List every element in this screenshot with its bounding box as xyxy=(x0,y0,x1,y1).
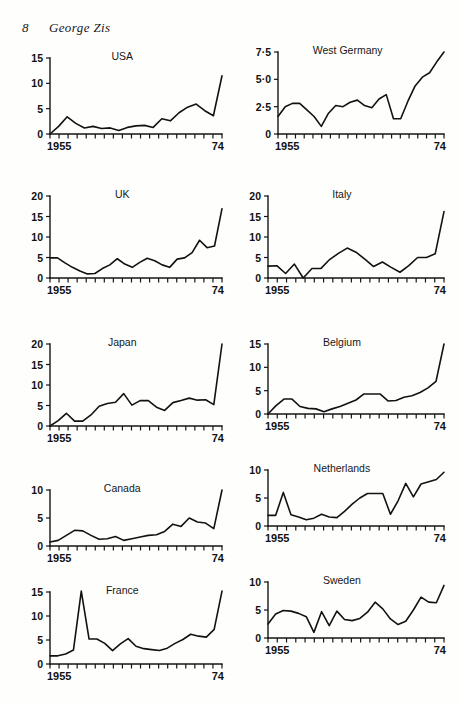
chart-canvas-belgium: Belgium051015195574 xyxy=(232,330,454,438)
y-tick-label: 0 xyxy=(37,540,43,552)
y-tick-label: 15 xyxy=(31,52,43,64)
y-tick-label: 0 xyxy=(255,520,261,532)
y-tick-label: 20 xyxy=(31,190,43,202)
x-end-label: 74 xyxy=(212,284,225,296)
series-line-japan xyxy=(50,344,222,426)
y-tick-label: 0 xyxy=(37,128,43,140)
x-end-label: 74 xyxy=(434,420,447,432)
chart-title: USA xyxy=(111,50,133,62)
chart-canvas-sweden: Sweden0510195574 xyxy=(232,568,454,672)
y-tick-label: 10 xyxy=(249,464,261,476)
chart-title: Sweden xyxy=(323,574,361,586)
chart-canvas-canada: Canada0510195574 xyxy=(14,476,224,576)
chart-canada: Canada0510195574 xyxy=(14,476,224,576)
chart-belgium: Belgium051015195574 xyxy=(232,330,454,438)
chart-title: Belgium xyxy=(323,336,361,348)
x-start-label: 1955 xyxy=(275,140,299,152)
chart-sweden: Sweden0510195574 xyxy=(232,568,454,672)
y-tick-label: 5 xyxy=(37,634,43,646)
chart-uk: UK05101520195574 xyxy=(14,182,224,300)
chart-netherlands: Netherlands0510195574 xyxy=(232,456,454,560)
x-start-label: 1955 xyxy=(47,284,71,296)
book-page: 8George Zis USA051015195574West Germany0… xyxy=(0,0,459,704)
y-tick-label: 15 xyxy=(249,211,261,223)
chart-france: France051015195574 xyxy=(14,578,224,690)
chart-japan: Japan05101520195574 xyxy=(14,330,224,448)
y-tick-label: 0 xyxy=(265,128,271,140)
y-tick-label: 15 xyxy=(31,586,43,598)
x-end-label: 74 xyxy=(212,432,225,444)
series-line-canada xyxy=(50,490,222,542)
x-end-label: 74 xyxy=(434,644,447,656)
y-tick-label: 10 xyxy=(31,379,43,391)
series-line-netherlands xyxy=(268,472,444,520)
y-tick-label: 20 xyxy=(31,338,43,350)
x-end-label: 74 xyxy=(212,552,225,564)
chart-west-germany: West Germany02·55·07·5195574 xyxy=(232,38,454,156)
chart-title: Netherlands xyxy=(314,462,371,474)
y-tick-label: 5·0 xyxy=(256,73,271,85)
y-tick-label: 7·5 xyxy=(256,46,271,58)
y-tick-label: 15 xyxy=(31,211,43,223)
chart-title: UK xyxy=(115,188,130,200)
chart-canvas-netherlands: Netherlands0510195574 xyxy=(232,456,454,560)
y-tick-label: 10 xyxy=(249,231,261,243)
y-tick-label: 15 xyxy=(31,359,43,371)
chart-title: France xyxy=(106,584,139,596)
y-tick-label: 5 xyxy=(37,512,43,524)
x-end-label: 74 xyxy=(434,532,447,544)
y-tick-label: 0 xyxy=(255,272,261,284)
x-start-label: 1955 xyxy=(47,552,71,564)
y-tick-label: 5 xyxy=(255,492,261,504)
x-start-label: 1955 xyxy=(47,670,71,682)
series-line-usa xyxy=(50,76,222,134)
x-start-label: 1955 xyxy=(265,644,289,656)
x-end-label: 74 xyxy=(434,284,447,296)
chart-canvas-japan: Japan05101520195574 xyxy=(14,330,224,448)
y-tick-label: 10 xyxy=(31,484,43,496)
y-tick-label: 10 xyxy=(31,77,43,89)
series-line-italy xyxy=(268,212,444,278)
y-tick-label: 0 xyxy=(255,632,261,644)
chart-title: West Germany xyxy=(313,44,384,56)
series-line-west-germany xyxy=(278,52,444,126)
y-tick-label: 5 xyxy=(255,385,261,397)
y-tick-label: 10 xyxy=(31,610,43,622)
running-head: 8George Zis xyxy=(22,20,111,36)
y-tick-label: 20 xyxy=(249,190,261,202)
chart-canvas-uk: UK05101520195574 xyxy=(14,182,224,300)
y-tick-label: 10 xyxy=(249,576,261,588)
series-line-uk xyxy=(50,209,222,274)
y-tick-label: 15 xyxy=(249,338,261,350)
y-tick-label: 5 xyxy=(255,252,261,264)
x-start-label: 1955 xyxy=(47,140,71,152)
series-line-belgium xyxy=(268,344,444,414)
y-tick-label: 2·5 xyxy=(256,101,271,113)
y-tick-label: 5 xyxy=(255,604,261,616)
x-start-label: 1955 xyxy=(265,532,289,544)
chart-canvas-usa: USA051015195574 xyxy=(14,44,224,156)
x-end-label: 74 xyxy=(212,140,225,152)
y-tick-label: 0 xyxy=(37,272,43,284)
page-number: 8 xyxy=(22,20,29,35)
y-tick-label: 0 xyxy=(255,408,261,420)
y-tick-label: 10 xyxy=(31,231,43,243)
y-tick-label: 5 xyxy=(37,103,43,115)
y-tick-label: 0 xyxy=(37,420,43,432)
chart-canvas-france: France051015195574 xyxy=(14,578,224,690)
author-name: George Zis xyxy=(49,20,111,35)
y-tick-label: 0 xyxy=(37,658,43,670)
y-tick-label: 5 xyxy=(37,252,43,264)
series-line-france xyxy=(50,591,222,656)
y-tick-label: 10 xyxy=(249,361,261,373)
chart-title: Canada xyxy=(104,482,141,494)
x-end-label: 74 xyxy=(434,140,447,152)
x-start-label: 1955 xyxy=(265,420,289,432)
chart-italy: Italy05101520195574 xyxy=(232,182,454,300)
chart-usa: USA051015195574 xyxy=(14,44,224,156)
chart-canvas-italy: Italy05101520195574 xyxy=(232,182,454,300)
x-start-label: 1955 xyxy=(47,432,71,444)
y-tick-label: 5 xyxy=(37,400,43,412)
chart-title: Italy xyxy=(332,188,352,200)
chart-canvas-west-germany: West Germany02·55·07·5195574 xyxy=(232,38,454,156)
